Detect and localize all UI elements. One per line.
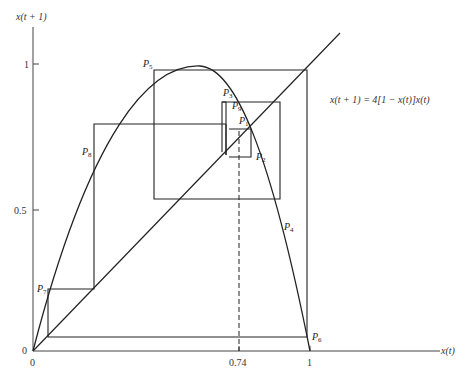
point-label-p5: P5	[142, 58, 153, 71]
point-label-p2: P2	[255, 151, 266, 164]
x-tick-label-074: 0.74	[229, 357, 247, 368]
point-label-p6: P6	[311, 331, 322, 344]
y-axis-label: x(t + 1)	[15, 11, 47, 23]
x-tick-label-0: 0	[30, 357, 35, 368]
x-tick-label-1: 1	[307, 357, 312, 368]
y-tick-label-0: 0	[22, 345, 27, 356]
equation-label: x(t + 1) = 4[1 − x(t)]x(t)	[329, 94, 430, 106]
point-label-p3: P3	[222, 87, 233, 100]
y-tick-label-1: 1	[24, 59, 29, 70]
point-label-p1: P1	[238, 115, 249, 128]
cobweb-lines	[48, 70, 307, 337]
point-label-p4: P4	[283, 221, 294, 234]
y-tick-label-05: 0.5	[14, 205, 27, 216]
cobweb-chart: x(t + 1) x(t) 1 0.5 0 0 0.74 1 x(t + 1) …	[0, 0, 471, 378]
point-label-p7: P7	[36, 283, 47, 296]
identity-diagonal	[33, 33, 340, 351]
x-axis-label: x(t)	[440, 345, 456, 357]
point-label-p8: P8	[81, 146, 92, 159]
